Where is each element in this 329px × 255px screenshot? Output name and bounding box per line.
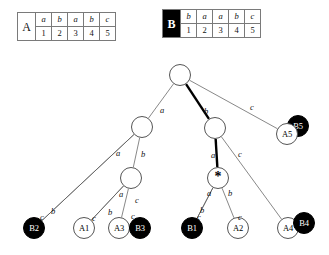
tree-edge-n-a-n-ab [133, 138, 139, 167]
tree-node-n-ab[interactable] [120, 167, 142, 189]
edge-label-c-16: c [131, 212, 135, 221]
edge-label-a-5: a [211, 151, 215, 160]
tree-edge-n-b-A4 [221, 137, 281, 219]
edge-label-c-8: c [135, 196, 139, 205]
edge-label-a-9: a [207, 189, 211, 198]
edge-label-b-11: b [51, 207, 55, 216]
edge-label-b-12: b [108, 208, 112, 217]
edge-label-c-17: c [197, 213, 201, 222]
edge-label-c-18: c [238, 213, 242, 222]
edge-label-b-4: b [141, 150, 145, 159]
suffix-tree: *B5A5B2A1A3B3B1A2A4B4 abcabacacabbbbcccc… [0, 0, 329, 255]
edge-label-c-2: c [250, 103, 254, 112]
tree-node-n-a[interactable] [131, 116, 153, 138]
edge-label-b-10: b [228, 189, 232, 198]
tree-node-A5[interactable]: A5 [276, 123, 298, 145]
tree-edge-root-A5 [190, 80, 278, 128]
tree-node-A3[interactable]: A3 [108, 217, 130, 239]
edge-label-c-14: c [40, 213, 44, 222]
edge-label-a-0: a [160, 106, 164, 115]
edge-label-c-6: c [238, 150, 242, 159]
edge-label-a-3: a [116, 149, 120, 158]
tree-edge-n-b-n-ba [216, 139, 218, 167]
figure-canvas: A a b a b c 1 2 3 4 5 B b a a b c 1 2 3 [0, 0, 329, 255]
tree-node-n-b[interactable] [204, 117, 226, 139]
tree-node-star[interactable]: * [207, 167, 229, 189]
edge-label-c-15: c [92, 214, 96, 223]
edge-label-b-1: b [204, 107, 208, 116]
tree-node-B4[interactable]: B4 [293, 212, 315, 234]
tree-node-root[interactable] [169, 64, 191, 86]
edge-label-a-7: a [119, 190, 123, 199]
